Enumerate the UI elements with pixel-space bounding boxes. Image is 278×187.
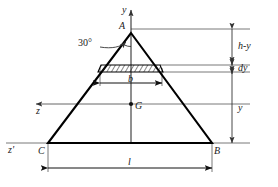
differential-strip [98,65,163,72]
centroid-marker [129,102,133,106]
label-base-width-l: l [128,157,131,167]
label-strip-width-b: b [128,74,133,84]
label-centroid-g: G [135,101,142,111]
label-vertex-c: C [38,146,45,156]
angle-leader [100,42,126,48]
label-dimension-y: y [238,103,242,113]
label-dimension-h-minus-y: h-y [238,41,251,51]
label-vertex-b: B [214,146,220,156]
label-z-prime-axis: z' [8,145,14,155]
label-apex-angle: 30° [78,38,92,48]
triangle-outline [48,33,212,143]
angle-arc [125,45,132,47]
label-y-axis: y [122,5,126,15]
triangle-cross-section-figure: y A 30° b z G z' C B l h-y dy y [0,0,278,187]
label-vertex-a: A [119,21,125,31]
label-dimension-dy: dy [238,63,247,73]
label-z-axis: z [36,106,40,116]
